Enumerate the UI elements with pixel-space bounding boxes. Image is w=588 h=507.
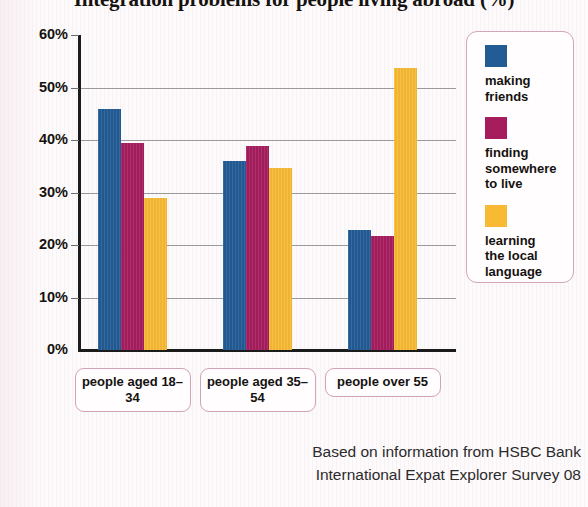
legend-label-3: learning the local language [485,233,571,280]
y-axis-tick-label: 30% [0,184,68,200]
bar-texture [98,109,121,351]
chart-legend: making friendsfinding somewhere to livel… [466,31,574,283]
y-axis-tick-mark [71,298,79,299]
bar-chart: Integration problems for people living a… [0,0,588,507]
legend-swatch-1 [485,45,507,67]
y-axis-tick-label: 10% [0,289,68,305]
y-axis-tick-label: 40% [0,131,68,147]
legend-item-1[interactable]: making friends [485,45,573,104]
y-axis-tick-mark [71,245,79,246]
bar-2-3 [269,168,292,350]
bar-texture [348,230,371,350]
bar-texture [371,236,394,350]
legend-item-3[interactable]: learning the local language [485,205,573,280]
bar-3-2 [371,236,394,350]
bar-1-1 [98,109,121,351]
y-axis-tick-label: 50% [0,79,68,95]
y-axis-tick-mark [71,88,79,89]
y-axis-tick-mark [71,193,79,194]
bar-texture [144,198,167,350]
y-axis-tick-label: 0% [0,341,68,357]
bar-texture [246,146,269,350]
category-label-2: people aged 35–54 [200,368,316,412]
y-axis-tick-mark [71,140,79,141]
chart-title: Integration problems for people living a… [12,0,576,12]
legend-swatch-2 [485,117,507,139]
y-axis-tick-mark [71,35,79,36]
source-note: Based on information from HSBC Bank Inte… [236,440,581,486]
category-label-3: people over 55 [325,368,441,397]
legend-label-1: making friends [485,73,571,104]
bar-texture [223,161,246,350]
legend-items: making friendsfinding somewhere to livel… [485,45,573,279]
plot-area [78,35,453,350]
bar-3-3 [394,68,417,350]
bar-2-1 [223,161,246,350]
legend-item-2[interactable]: finding somewhere to live [485,117,573,192]
bar-texture [269,168,292,350]
bar-3-1 [348,230,371,350]
y-axis-tick-label: 20% [0,236,68,252]
legend-label-2: finding somewhere to live [485,145,571,192]
legend-swatch-3 [485,205,507,227]
bar-texture [394,68,417,350]
y-axis-tick-labels: 0%10%20%30%40%50%60% [0,35,70,350]
bar-2-2 [246,146,269,350]
category-label-1: people aged 18–34 [75,368,191,412]
bar-texture [121,143,144,350]
y-axis-tick-label: 60% [0,26,68,42]
bar-1-3 [144,198,167,350]
bar-1-2 [121,143,144,350]
